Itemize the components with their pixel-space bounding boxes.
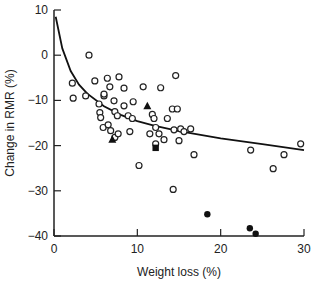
open-circle-marker [156, 131, 162, 137]
y-tick-label: 0 [41, 48, 48, 62]
open-circle-marker [92, 78, 98, 84]
y-tick-label: −10 [28, 93, 49, 107]
open-circle-marker [111, 98, 117, 104]
scatter-chart: 100−10−20−30−400102030 Weight loss (%) C… [0, 0, 315, 282]
filled-circle-marker [252, 231, 258, 237]
open-circle-marker [105, 122, 111, 128]
open-circle-marker [181, 129, 187, 135]
open-circle-marker [121, 85, 127, 91]
open-circle-marker [104, 75, 110, 81]
open-circle-marker [298, 141, 304, 147]
y-tick-label: −20 [28, 139, 49, 153]
open-circle-marker [270, 166, 276, 172]
open-circle-marker [136, 162, 142, 168]
x-tick-label: 0 [51, 242, 58, 256]
y-tick-label: −40 [28, 229, 49, 243]
open-circle-marker [191, 152, 197, 158]
open-circle-marker [170, 186, 176, 192]
open-circle-marker [129, 115, 135, 121]
filled-circle-marker [247, 225, 253, 231]
open-circle-marker [174, 106, 180, 112]
open-circle-marker [114, 113, 120, 119]
filled-triangle-marker [143, 102, 151, 110]
open-circle-marker [101, 91, 107, 97]
y-axis-title: Change in RMR (%) [3, 69, 17, 176]
open-circle-marker [153, 125, 159, 131]
open-circle-marker [158, 85, 164, 91]
open-circle-marker [248, 147, 254, 153]
open-circle-marker [69, 80, 75, 86]
open-circle-marker [188, 126, 194, 132]
filled-circle-marker [204, 211, 210, 217]
open-circle-marker [98, 115, 104, 121]
open-circle-marker [96, 101, 102, 107]
open-circle-marker [108, 128, 114, 134]
filled-square-marker [152, 145, 158, 151]
open-circle-marker [116, 74, 122, 80]
open-circle-marker [140, 84, 146, 90]
open-circle-marker [164, 115, 170, 121]
open-circle-marker [86, 52, 92, 58]
open-circle-marker [121, 103, 127, 109]
open-circle-marker [70, 95, 76, 101]
open-circle-marker [127, 129, 133, 135]
y-tick-label: −30 [28, 184, 49, 198]
open-circle-marker [171, 127, 177, 133]
open-circle-marker [130, 99, 136, 105]
open-circle-marker [107, 84, 113, 90]
x-tick-label: 30 [297, 242, 311, 256]
open-circle-marker [147, 131, 153, 137]
x-axis-title: Weight loss (%) [137, 265, 221, 279]
x-tick-label: 20 [214, 242, 228, 256]
open-circle-marker [83, 93, 89, 99]
y-tick-label: 10 [35, 3, 49, 17]
open-circle-marker [176, 138, 182, 144]
open-circle-marker [281, 152, 287, 158]
open-circle-marker [161, 137, 167, 143]
x-tick-label: 10 [131, 242, 145, 256]
open-circle-marker [115, 131, 121, 137]
open-circle-marker [151, 115, 157, 121]
open-circle-marker [173, 73, 179, 79]
